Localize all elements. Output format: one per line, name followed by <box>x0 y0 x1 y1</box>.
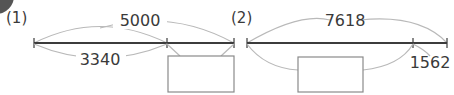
problem-1: (1) 5000 3340 <box>6 9 234 92</box>
problem-1-label: (1) <box>6 9 27 27</box>
problem-2-label: (2) <box>231 9 252 27</box>
problem-2-total: 7618 <box>325 11 366 30</box>
tape-diagrams: (1) 5000 3340 (2) 7618 1562 <box>0 0 454 95</box>
problem-2: (2) 7618 1562 <box>231 9 450 92</box>
problem-2-part: 1562 <box>410 53 451 72</box>
problem-1-part: 3340 <box>80 50 121 69</box>
answer-box-1[interactable] <box>168 56 234 92</box>
problem-1-total: 5000 <box>120 11 161 30</box>
answer-box-2[interactable] <box>298 57 363 92</box>
